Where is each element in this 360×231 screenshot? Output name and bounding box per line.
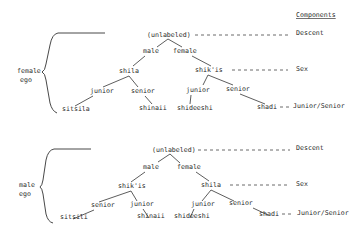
age-node-senior: senior (131, 87, 155, 95)
sex-node-male: male (143, 47, 159, 55)
root-node: (unlabeled) (152, 146, 196, 154)
sex-node-male: male (143, 163, 159, 171)
edge-shikis-senior (208, 75, 233, 85)
component-descent: Descent (296, 29, 324, 37)
edge-shila-senior (129, 76, 138, 87)
edge-root-male (158, 154, 170, 162)
term-sitsili: sitsili (60, 213, 88, 221)
sibling-node-shikis: shik'is (195, 66, 223, 74)
sibling-node-shila: shila (201, 181, 221, 189)
term-sitsila: sitsila (62, 105, 90, 113)
term-shideeshi: shideeshi (177, 104, 213, 112)
edge-root-female (168, 39, 182, 47)
component-sex: Sex (296, 180, 308, 188)
kinship-terminology-diagram: Components female ego (unlabeled) Descen… (0, 0, 360, 231)
term-shinaii: shinaii (137, 212, 165, 220)
edge-shila-junior (103, 76, 129, 87)
edge-junior-shideeshi (190, 95, 191, 104)
term-shinaii: shinaii (139, 104, 167, 112)
component-junior-senior: Junior/Senior (297, 209, 349, 217)
component-descent: Descent (296, 144, 324, 152)
component-sex: Sex (296, 65, 308, 73)
age-node-senior: senior (226, 85, 250, 93)
diagram-svg: Components female ego (unlabeled) Descen… (0, 0, 360, 231)
ego-label-line1: male (19, 181, 35, 189)
component-junior-senior: Junior/Senior (293, 102, 345, 110)
age-node-junior: junior (186, 86, 210, 94)
ego-label-line1: female (17, 67, 41, 75)
edge-root-male (157, 39, 168, 47)
sibling-node-shikis: shik'is (118, 182, 146, 190)
male-ego-brace (40, 149, 91, 223)
sex-node-female: female (177, 163, 201, 171)
edge-root-female (170, 154, 180, 163)
ego-label-line2: ego (20, 76, 32, 84)
age-node-junior: junior (130, 200, 154, 208)
term-shideeshi: shideeshi (174, 212, 210, 220)
components-heading: Components (296, 11, 336, 19)
female-ego-diagram: female ego (unlabeled) Descent male fema… (17, 29, 345, 113)
age-node-senior: senior (229, 199, 253, 207)
edge-male-shila (133, 56, 145, 66)
male-ego-diagram: male ego (unlabeled) Descent male female… (19, 144, 349, 223)
age-node-junior: junior (90, 87, 114, 95)
term-shadi: shadi (257, 103, 277, 111)
edge-male-shikis (131, 172, 145, 182)
age-node-junior: junior (191, 200, 215, 208)
ego-label-line2: ego (19, 190, 31, 198)
term-shadi: shadi (259, 210, 279, 218)
root-node: (unlabeled) (147, 31, 191, 39)
sibling-node-shila: shila (119, 67, 139, 75)
edge-female-shila (196, 172, 209, 181)
edge-female-shikis (192, 56, 211, 66)
age-node-senior: senior (91, 201, 115, 209)
female-ego-brace (42, 33, 105, 113)
edge-senior-shinaii (145, 96, 152, 104)
sex-node-female: female (173, 47, 197, 55)
edge-shikis-junior (203, 75, 208, 85)
